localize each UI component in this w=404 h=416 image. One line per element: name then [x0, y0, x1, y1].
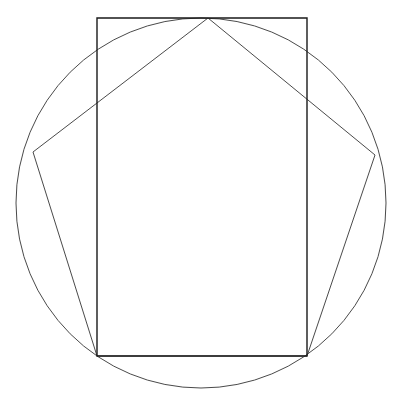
figure-canvas [0, 0, 404, 416]
geometry-figure [0, 0, 404, 416]
canvas-background [0, 0, 404, 416]
